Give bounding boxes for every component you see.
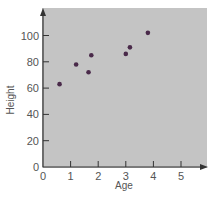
y-tick-label: 0 [33,161,39,173]
x-tick-label: 5 [178,170,184,182]
scatter-chart: 020406080100 012345 Age Height [0,0,221,203]
data-point [128,45,133,50]
data-point [89,53,94,58]
data-point [146,31,151,36]
x-tick-label: 2 [95,170,101,182]
y-tick-label: 100 [21,30,39,42]
data-point [74,62,79,67]
x-tick-label: 4 [150,170,156,182]
y-axis-label: Height [5,85,16,114]
plot-background [42,8,207,168]
data-point [86,70,91,75]
data-point [124,52,129,57]
y-tick-label: 60 [27,82,39,94]
y-tick-label: 80 [27,56,39,68]
data-point [57,82,62,87]
x-tick-label: 1 [68,170,74,182]
y-tick-label: 40 [27,108,39,120]
y-tick-label: 20 [27,135,39,147]
x-axis-label: Age [115,180,133,191]
x-tick-label: 0 [40,170,46,182]
